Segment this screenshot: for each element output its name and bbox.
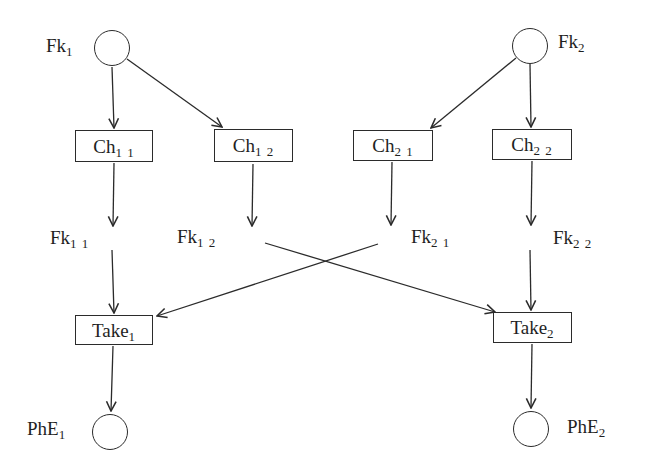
arc-take1-phe1 <box>111 346 113 411</box>
place-phe2 <box>513 411 549 447</box>
label-fk11: Fk1 1 <box>50 228 89 247</box>
label-fk2: Fk2 <box>558 32 586 51</box>
label-phe2: PhE2 <box>567 417 606 436</box>
transition-take1: Take1 <box>75 315 153 345</box>
arc-fk22-take2 <box>530 250 531 310</box>
label-fk1: Fk1 <box>46 36 74 55</box>
transition-take2: Take2 <box>493 312 572 343</box>
arcs-layer <box>0 0 648 468</box>
arc-fk1-ch11 <box>112 67 114 128</box>
label-fk12: Fk1 2 <box>177 227 216 246</box>
transition-ch11: Ch1 1 <box>75 130 153 162</box>
arc-fk21-take1 <box>157 244 378 316</box>
transition-ch21-label: Ch2 1 <box>372 136 413 155</box>
arc-take2-phe2 <box>531 344 532 408</box>
arc-ch22-fk22 <box>531 161 532 225</box>
transition-ch22-label: Ch2 2 <box>511 135 552 154</box>
transition-ch12: Ch1 2 <box>214 129 293 162</box>
arc-fk11-take1 <box>112 250 114 313</box>
transition-take2-label: Take2 <box>510 318 554 337</box>
place-phe1 <box>92 414 128 450</box>
transition-ch21: Ch2 1 <box>353 130 433 161</box>
arc-ch11-fk11 <box>113 163 114 226</box>
place-fk2 <box>512 28 548 64</box>
label-fk22: Fk2 2 <box>553 228 592 247</box>
arc-ch21-fk21 <box>391 162 392 225</box>
arc-fk2-ch22 <box>530 64 531 127</box>
label-fk21: Fk2 1 <box>411 227 450 246</box>
arc-ch12-fk12 <box>252 164 253 226</box>
transition-ch11-label: Ch1 1 <box>93 137 134 156</box>
petri-net-diagram: Ch1 1 Ch1 2 Ch2 1 Ch2 2 Take1 Take2 Fk1 … <box>0 0 648 468</box>
transition-ch22: Ch2 2 <box>492 129 572 160</box>
label-phe1: PhE1 <box>27 419 66 438</box>
transition-take1-label: Take1 <box>92 321 136 340</box>
arc-fk2-ch21 <box>431 58 516 128</box>
arc-fk12-take2 <box>265 243 495 312</box>
arc-fk1-ch12 <box>127 59 222 127</box>
transition-ch12-label: Ch1 2 <box>233 136 274 155</box>
place-fk1 <box>94 30 130 66</box>
